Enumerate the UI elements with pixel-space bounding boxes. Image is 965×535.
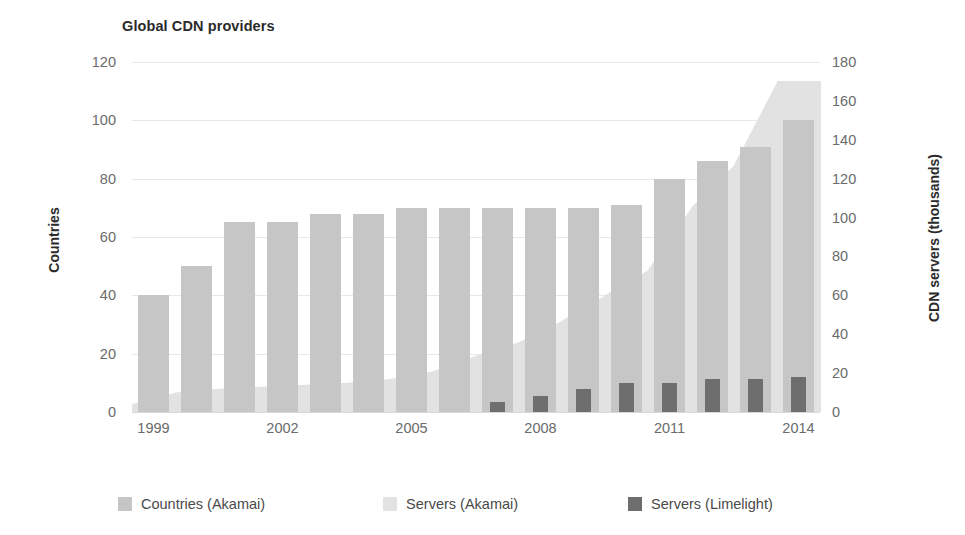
y-tick-label-left: 20 <box>70 347 116 362</box>
y-tick-label-right: 140 <box>832 133 878 148</box>
gridline <box>132 412 820 413</box>
y-axis-title-right: CDN servers (thousands) <box>926 123 942 353</box>
x-tick-label: 2008 <box>524 420 556 436</box>
bar-limelight <box>705 379 720 412</box>
bar-limelight <box>533 396 548 412</box>
y-tick-label-left: 40 <box>70 288 116 303</box>
y-tick-label-right: 60 <box>832 288 878 303</box>
y-axis-right-ticks: 020406080100120140160180 <box>832 62 878 412</box>
legend-label: Servers (Limelight) <box>651 496 773 512</box>
x-tick-label: 1999 <box>137 420 169 436</box>
y-tick-label-right: 180 <box>832 55 878 70</box>
x-tick-label: 2011 <box>654 420 685 436</box>
bar-limelight <box>791 377 806 412</box>
bar-limelight <box>748 379 763 412</box>
y-tick-label-left: 80 <box>70 172 116 187</box>
x-tick-label: 2014 <box>782 420 814 436</box>
cdn-providers-chart: Global CDN providers Countries CDN serve… <box>0 0 965 535</box>
plot-area <box>132 62 820 412</box>
servers-limelight-series <box>132 62 820 412</box>
y-tick-label-right: 100 <box>832 211 878 226</box>
y-tick-label-right: 40 <box>832 327 878 342</box>
y-axis-left-ticks: 020406080100120 <box>70 62 116 412</box>
y-tick-label-right: 80 <box>832 249 878 264</box>
x-tick-label: 2002 <box>266 420 298 436</box>
legend-swatch-icon <box>118 497 132 511</box>
legend-swatch-icon <box>628 497 642 511</box>
legend-label: Countries (Akamai) <box>141 496 265 512</box>
y-tick-label-right: 160 <box>832 94 878 109</box>
y-tick-label-left: 60 <box>70 230 116 245</box>
chart-legend: Countries (Akamai)Servers (Akamai)Server… <box>118 490 878 518</box>
y-tick-label-right: 20 <box>832 366 878 381</box>
y-tick-label-right: 120 <box>832 172 878 187</box>
legend-item[interactable]: Servers (Akamai) <box>383 496 518 512</box>
bar-limelight <box>662 383 677 412</box>
y-tick-label-left: 0 <box>70 405 116 420</box>
y-tick-label-left: 120 <box>70 55 116 70</box>
bar-limelight <box>619 383 634 412</box>
bar-limelight <box>576 389 591 412</box>
y-axis-title-left: Countries <box>46 180 62 300</box>
legend-label: Servers (Akamai) <box>406 496 518 512</box>
legend-item[interactable]: Servers (Limelight) <box>628 496 773 512</box>
x-tick-label: 2005 <box>395 420 427 436</box>
chart-title: Global CDN providers <box>122 18 275 34</box>
bar-limelight <box>490 402 505 412</box>
x-axis-ticks: 199920022005200820112014 <box>132 420 820 448</box>
y-tick-label-left: 100 <box>70 113 116 128</box>
legend-item[interactable]: Countries (Akamai) <box>118 496 265 512</box>
y-tick-label-right: 0 <box>832 405 878 420</box>
legend-swatch-icon <box>383 497 397 511</box>
